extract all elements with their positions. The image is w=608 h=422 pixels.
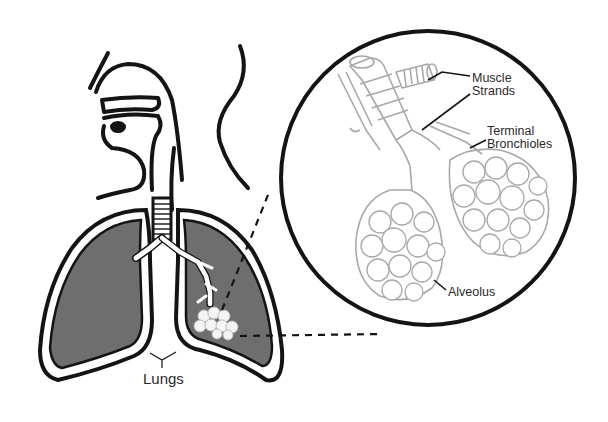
label-alveolus: Alveolus: [448, 286, 495, 299]
respiratory-diagram: [0, 0, 608, 422]
label-muscle-strands: Muscle Strands: [472, 72, 515, 98]
trachea: [153, 198, 171, 240]
left-lung: [40, 210, 152, 380]
lungs-leader: [150, 352, 176, 368]
label-muscle-strands-line2: Strands: [472, 85, 515, 98]
label-terminal-bronchioles-line2: Bronchioles: [487, 138, 552, 151]
head-airway: [90, 46, 248, 210]
label-terminal-bronchioles: Terminal Bronchioles: [487, 125, 552, 151]
label-lungs: Lungs: [143, 371, 184, 387]
